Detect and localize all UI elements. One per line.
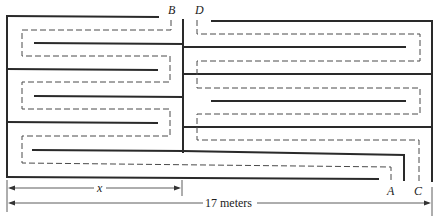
dimension-total-label: 17 meters xyxy=(205,196,252,210)
label-b: B xyxy=(168,3,176,17)
dimension-x-label: x xyxy=(96,181,103,195)
label-c: C xyxy=(414,184,423,198)
dimension-total: 17 meters xyxy=(8,187,432,216)
maze-walls xyxy=(7,16,432,181)
label-d: D xyxy=(194,3,204,17)
dimension-x: x xyxy=(7,180,182,212)
label-a: A xyxy=(386,184,395,198)
maze-diagram: B D A C x 17 meters xyxy=(0,0,438,218)
